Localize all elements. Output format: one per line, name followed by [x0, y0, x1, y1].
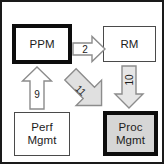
node-perf-mgmt[interactable]: Perf Mgmt — [14, 112, 70, 156]
arrow-perf-mgmt-to-ppm[interactable]: 9 — [21, 66, 53, 110]
arrow-perf-mgmt-to-ppm-label: 9 — [21, 80, 53, 108]
node-perf-mgmt-label-line1: Perf — [31, 121, 53, 134]
arrow-ppm-to-rm[interactable]: 2 — [72, 35, 106, 63]
node-proc-mgmt-label-line1: Proc — [118, 121, 142, 134]
node-proc-mgmt-label-line2: Mgmt — [116, 134, 145, 147]
diagram-canvas: PPM RM Perf Mgmt Proc Mgmt 2 10 9 — [0, 0, 164, 164]
node-rm-label: RM — [120, 38, 138, 51]
arrow-rm-to-proc-mgmt[interactable]: 10 — [114, 65, 144, 109]
node-rm[interactable]: RM — [103, 26, 156, 62]
node-ppm-label: PPM — [29, 38, 54, 51]
arrow-rm-to-proc-mgmt-label: 10 — [114, 65, 144, 95]
arrow-ppm-to-proc-mgmt[interactable]: 11 — [60, 64, 112, 116]
node-ppm[interactable]: PPM — [12, 24, 72, 64]
node-perf-mgmt-label-line2: Mgmt — [27, 134, 56, 147]
node-proc-mgmt[interactable]: Proc Mgmt — [103, 111, 158, 156]
arrow-ppm-to-rm-label: 2 — [72, 35, 98, 63]
